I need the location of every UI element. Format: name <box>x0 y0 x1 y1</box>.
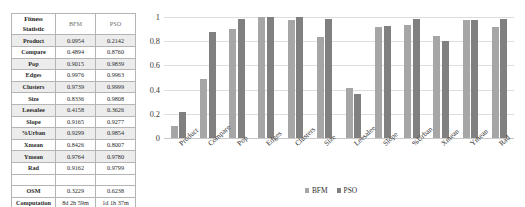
chart-y-tick-label: 0.8 <box>150 37 160 46</box>
chart-bar-pso[interactable] <box>325 19 332 138</box>
table-row: Slope0.91650.9277 <box>12 116 136 128</box>
chart-bar-group <box>164 17 193 138</box>
table-cell-bfm: 0.0954 <box>56 35 96 47</box>
legend-label: PSO <box>344 186 358 195</box>
chart-legend: BFMPSO <box>140 186 522 195</box>
table-row: Leesalee0.41580.3626 <box>12 104 136 116</box>
table-footer-cell-osm-pso: 0.6238 <box>96 186 136 198</box>
table-row-label: Slope <box>12 116 56 128</box>
legend-label: BFM <box>312 186 328 195</box>
table-cell-pso: 0.9277 <box>96 116 136 128</box>
chart-x-axis-labels: ProductComparePopEdgesClustersSizeLeesal… <box>164 139 514 183</box>
chart-bar-pso[interactable] <box>442 41 449 138</box>
table-cell-bfm: 0.8426 <box>56 139 96 151</box>
chart-bar-group <box>281 17 310 138</box>
table-cell-pso: 0.8007 <box>96 139 136 151</box>
chart-bar-bfm[interactable] <box>404 25 411 138</box>
table-row-label: Size <box>12 93 56 105</box>
chart-bar-bfm[interactable] <box>463 20 470 138</box>
chart-bar-bfm[interactable] <box>229 29 236 138</box>
chart-x-label-cell: Compare <box>193 139 222 183</box>
chart-bar-pso[interactable] <box>267 17 274 138</box>
chart-bars-layer <box>164 17 514 138</box>
table-cell-pso: 0.9799 <box>96 162 136 174</box>
table-cell-pso: 0.9854 <box>96 128 136 140</box>
table-cell-pso: 0.9839 <box>96 58 136 70</box>
table-row: Rad0.91620.9799 <box>12 162 136 174</box>
table-footer-cell-time-pso: 1d 1h 37m3s <box>96 197 136 207</box>
chart-x-label-cell: Slope <box>368 139 397 183</box>
chart-bar-bfm[interactable] <box>288 20 295 138</box>
chart-bar-pso[interactable] <box>354 94 361 138</box>
table-row: Product0.09540.2142 <box>12 35 136 47</box>
chart-bar-pso[interactable] <box>471 20 478 138</box>
table-cell-pso: 0.9963 <box>96 70 136 82</box>
chart-bar-pso[interactable] <box>500 19 507 138</box>
table-row: Clusters0.97390.9999 <box>12 81 136 93</box>
table-row-label: Ymean <box>12 151 56 163</box>
chart-plot-area: 00.20.40.60.81 <box>164 17 514 138</box>
chart-bar-pso[interactable] <box>209 32 216 138</box>
chart-x-label-cell: Product <box>164 139 193 183</box>
chart-bar-group <box>397 17 426 138</box>
chart-bar-pso[interactable] <box>413 19 420 138</box>
chart-x-label-cell: Clusters <box>281 139 310 183</box>
table-footer-row-osm: OSM0.32290.6238 <box>12 186 136 198</box>
table-cell-pso: 0.9999 <box>96 81 136 93</box>
chart-bar-bfm[interactable] <box>317 37 324 138</box>
chart-bar-pso[interactable] <box>384 26 391 138</box>
chart-y-tick-label: 1 <box>156 13 160 22</box>
fitness-statistic-table: FitnessStatisticBFMPSOProduct0.09540.214… <box>11 13 136 207</box>
computation-time-label-line1: Computation <box>16 199 51 206</box>
table-row: Pop0.90150.9839 <box>12 58 136 70</box>
chart-y-tick-label: 0.4 <box>150 85 160 94</box>
table-row-label: %Urban <box>12 128 56 140</box>
chart-x-label-cell: Leesalee <box>339 139 368 183</box>
table-cell-bfm: 0.9299 <box>56 128 96 140</box>
table-cell-pso: 0.3626 <box>96 104 136 116</box>
chart-x-label-cell: Size <box>310 139 339 183</box>
table-cell-bfm: 0.8336 <box>56 93 96 105</box>
table-row-label: Rad <box>12 162 56 174</box>
chart-bar-group <box>427 17 456 138</box>
table-row-label: Clusters <box>12 81 56 93</box>
chart-bar-pso[interactable] <box>296 17 303 138</box>
chart-bar-group <box>456 17 485 138</box>
fitness-statistic-table-panel: FitnessStatisticBFMPSOProduct0.09540.214… <box>11 13 135 207</box>
table-row-label: Pop <box>12 58 56 70</box>
chart-bar-pso[interactable] <box>238 19 245 138</box>
chart-x-label-cell: Pop <box>222 139 251 183</box>
chart-bar-bfm[interactable] <box>433 36 440 138</box>
table-row: Ymean0.97640.9780 <box>12 151 136 163</box>
table-row-label: Product <box>12 35 56 47</box>
table-row: Size0.83360.9808 <box>12 93 136 105</box>
table-row: Edges0.99760.9963 <box>12 70 136 82</box>
table-cell-bfm: 0.4158 <box>56 104 96 116</box>
chart-bar-bfm[interactable] <box>375 27 382 138</box>
chart-y-tick-label: 0 <box>156 134 160 143</box>
chart-bar-group <box>310 17 339 138</box>
chart-bar-bfm[interactable] <box>346 88 353 138</box>
table-row-label: Edges <box>12 70 56 82</box>
table-row-label: Leesalee <box>12 104 56 116</box>
table-footer-label-computation-time: ComputationTime <box>12 197 56 207</box>
time-pso-line1: 1d 1h 37m <box>102 199 128 206</box>
legend-item-pso[interactable]: PSO <box>337 186 358 195</box>
chart-bar-group <box>222 17 251 138</box>
table-spacer-row <box>12 174 136 186</box>
chart-bar-bfm[interactable] <box>171 126 178 138</box>
table-row-label: Compare <box>12 47 56 59</box>
chart-bar-bfm[interactable] <box>200 79 207 138</box>
legend-swatch-pso <box>337 188 342 193</box>
chart-bar-bfm[interactable] <box>258 17 265 138</box>
time-bfm-line1: 8d 2h 59m <box>62 199 88 206</box>
chart-x-label-cell: Rad <box>485 139 514 183</box>
chart-bar-group <box>252 17 281 138</box>
table-cell-pso: 0.9780 <box>96 151 136 163</box>
table-header-row: FitnessStatisticBFMPSO <box>12 14 136 35</box>
table-cell-bfm: 0.9764 <box>56 151 96 163</box>
chart-y-tick-label: 0.6 <box>150 61 160 70</box>
chart-bar-bfm[interactable] <box>492 27 499 138</box>
table-cell-bfm: 0.9976 <box>56 70 96 82</box>
legend-item-bfm[interactable]: BFM <box>305 186 328 195</box>
